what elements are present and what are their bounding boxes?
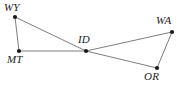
node-label-or: OR xyxy=(144,71,159,82)
edge-wa-or xyxy=(157,32,172,68)
node-label-mt: MT xyxy=(7,54,23,65)
node-id xyxy=(84,49,88,53)
node-wy xyxy=(13,15,17,19)
node-label-id: ID xyxy=(78,34,90,45)
edge-id-or xyxy=(86,51,157,68)
nodes-group xyxy=(13,15,174,70)
node-label-wa: WA xyxy=(156,15,172,26)
node-wa xyxy=(170,30,174,34)
edges-group xyxy=(15,17,172,68)
node-label-wy: WY xyxy=(4,2,20,13)
graph-figure: WY MT ID WA OR xyxy=(0,0,185,88)
edge-id-wa xyxy=(86,32,172,51)
edge-wy-mt xyxy=(15,17,19,51)
edge-wy-id xyxy=(15,17,86,51)
